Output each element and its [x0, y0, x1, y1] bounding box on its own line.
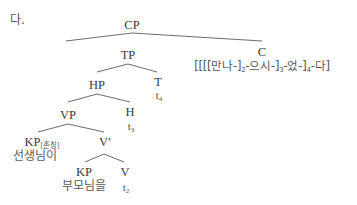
node-t: T: [154, 76, 162, 89]
node-vbar: V′: [99, 136, 111, 149]
c-part-stem: [[[[만나-]: [194, 59, 241, 73]
node-vp: VP: [60, 109, 76, 122]
edge-vbar-v: [104, 154, 124, 162]
c-part-past: -었-]: [284, 59, 307, 73]
node-kp-object: KP: [76, 166, 92, 179]
c-part-declarative: -다]: [311, 59, 330, 73]
node-cp: CP: [124, 19, 139, 32]
edge-tp-t: [128, 64, 157, 72]
node-hp: HP: [89, 79, 105, 92]
edge-tp-hp: [97, 64, 128, 72]
edge-hp-vp: [68, 94, 97, 102]
h-trace: t3: [128, 120, 135, 136]
c-terminal-string: [[[[만나-]2-으시-]3-었-]4-다]: [194, 60, 330, 77]
node-v: V: [120, 166, 129, 179]
edge-hp-h: [97, 94, 130, 102]
kp-subject-word: 선생님이: [13, 150, 57, 163]
t-trace: t4: [156, 89, 163, 105]
edge-vp-kp: [38, 124, 68, 132]
edge-vbar-kp: [85, 154, 104, 162]
node-c: C: [258, 46, 266, 59]
edge-vp-vbar: [68, 124, 104, 132]
node-tp: TP: [121, 49, 136, 62]
kp-object-word: 부모님을: [62, 180, 106, 193]
node-h: H: [125, 106, 134, 119]
v-trace: t2: [123, 181, 130, 197]
edge-cp-tp: [66, 33, 132, 41]
c-part-honorific: -으시-]: [245, 59, 279, 73]
edge-cp-c: [132, 33, 262, 41]
tree-edges: [0, 0, 357, 205]
